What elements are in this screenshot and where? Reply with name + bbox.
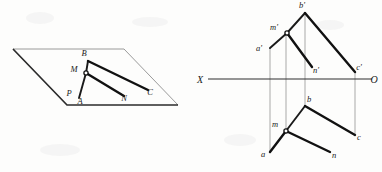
label-c-prime: c' <box>356 62 362 72</box>
label-b: b <box>307 94 311 104</box>
label-a: a <box>261 149 265 159</box>
right-orthographic-view: X O b' m' a' n' c' b m a n c <box>196 0 378 160</box>
point-M-node <box>84 71 88 75</box>
label-M: M <box>69 64 78 74</box>
label-B: B <box>81 48 86 58</box>
label-b-prime: b' <box>299 0 305 10</box>
label-c: c <box>357 132 361 142</box>
label-axis-X: X <box>196 74 204 85</box>
segment-m1b1 <box>287 13 305 33</box>
segment-BC <box>88 61 148 90</box>
plane-edge-far <box>13 49 178 105</box>
label-N: N <box>120 93 128 103</box>
label-n: n <box>332 150 336 160</box>
label-m-prime: m' <box>270 22 278 32</box>
figure-root: B M A N C P X O <box>0 0 382 172</box>
left-pictorial-view: B M A N C P <box>13 48 178 106</box>
label-plane-P: P <box>65 88 71 98</box>
label-C: C <box>147 87 153 97</box>
segment-m1n1 <box>287 33 312 67</box>
point-m-node <box>284 129 288 133</box>
point-m1-node <box>285 31 289 35</box>
label-n-prime: n' <box>313 65 319 75</box>
technical-drawing-canvas: B M A N C P X O <box>0 0 382 172</box>
segment-mb <box>286 106 305 131</box>
segment-m1a1 <box>270 33 287 48</box>
label-A: A <box>76 96 83 106</box>
label-axis-O: O <box>370 74 377 85</box>
segment-MA <box>79 73 86 98</box>
label-m: m <box>272 119 278 129</box>
label-a-prime: a' <box>256 43 262 53</box>
plane-edge-near <box>13 49 178 105</box>
segment-bc <box>305 106 355 135</box>
segment-ma <box>270 131 286 152</box>
paper-texture <box>26 12 344 156</box>
segment-mn <box>286 131 330 152</box>
